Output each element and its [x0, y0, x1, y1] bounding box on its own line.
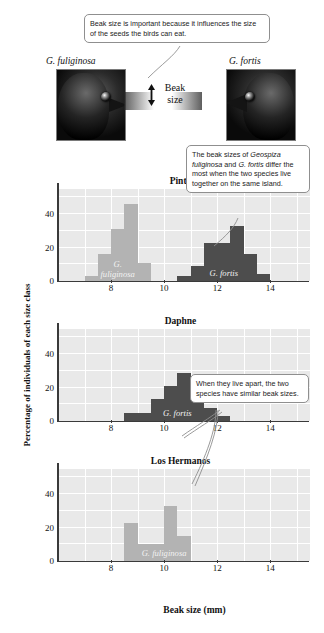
- y-tick-label: 20: [45, 243, 54, 253]
- x-tick-label: 10: [160, 283, 169, 293]
- bird-body-shape: [243, 73, 293, 140]
- callout-text: Beak size is important because it influe…: [90, 19, 256, 38]
- gridline-horizontal: [58, 196, 310, 197]
- x-tick-label: 10: [160, 563, 169, 573]
- species-caption-right: G. fortis: [229, 56, 261, 66]
- gridline-horizontal: [58, 336, 310, 337]
- gridline-vertical: [138, 329, 139, 421]
- x-axis-title: Beak size (mm): [30, 605, 324, 615]
- x-tick-label: 14: [266, 283, 275, 293]
- histogram-pinta: G.fuliginosaG. fortis 020408101214: [58, 189, 310, 281]
- gridline-vertical: [85, 469, 86, 561]
- y-tick-label: 40: [45, 349, 54, 359]
- y-axis-line: [57, 323, 59, 421]
- histogram-bar: [138, 263, 151, 281]
- beak-size-label-line2: size: [167, 94, 183, 105]
- x-tick-label: 8: [109, 283, 114, 293]
- gridline-horizontal: [58, 527, 310, 528]
- x-tick-label: 12: [213, 563, 222, 573]
- y-tick-label: 20: [45, 383, 54, 393]
- plot-area: G.fuliginosaG. fortis: [58, 189, 310, 281]
- y-tick-label: 40: [45, 209, 54, 219]
- gridline-vertical: [85, 189, 86, 281]
- callout-text: The beak sizes of Geospiza fuliginosa an…: [192, 150, 293, 188]
- y-tick-label: 0: [50, 276, 55, 286]
- gridline-horizontal: [58, 370, 310, 371]
- callout-leader-line-daphne: [176, 410, 226, 490]
- gridline-vertical: [270, 189, 271, 281]
- gridline-vertical: [85, 329, 86, 421]
- callout-text: When they live apart, the two species ha…: [196, 379, 299, 398]
- x-tick-label: 8: [109, 423, 114, 433]
- gridline-horizontal: [58, 510, 310, 511]
- histogram-bar: [244, 254, 257, 281]
- y-axis-line: [57, 463, 59, 561]
- series-label: G. fuliginosa: [142, 549, 187, 559]
- callout-leader-line-top: [140, 46, 200, 80]
- chart-title: Los Hermanos: [30, 456, 315, 466]
- gridline-horizontal: [58, 263, 310, 264]
- callout-daphne-explanation: When they live apart, the two species ha…: [190, 374, 309, 403]
- callout-leader-line-pinta: [204, 218, 244, 248]
- y-tick-label: 40: [45, 489, 54, 499]
- x-tick-label: 10: [160, 423, 169, 433]
- chart-panel-daphne: Daphne G. fortis 020408101214: [30, 316, 315, 421]
- gridline-vertical: [111, 469, 112, 561]
- gridline-horizontal: [58, 247, 310, 248]
- bird-eye-shape: [245, 92, 255, 102]
- x-tick-label: 12: [213, 283, 222, 293]
- finch-head-large-beak-icon: [226, 69, 296, 141]
- gridline-vertical: [164, 189, 165, 281]
- callout-pinta-explanation: The beak sizes of Geospiza fuliginosa an…: [186, 145, 310, 193]
- bird-eye-shape: [101, 92, 111, 102]
- bird-beak-shape: [226, 94, 247, 112]
- gridline-horizontal: [58, 230, 310, 231]
- y-tick-label: 0: [50, 416, 55, 426]
- gridline-horizontal: [58, 493, 310, 494]
- gridline-horizontal: [58, 213, 310, 214]
- series-label: G.fuliginosa: [100, 260, 134, 279]
- species-caption-left: G. fuliginosa: [46, 56, 96, 66]
- chart-title: Daphne: [30, 316, 315, 326]
- gridline-vertical: [244, 469, 245, 561]
- series-label: G. fortis: [209, 269, 238, 279]
- x-tick-label: 14: [266, 423, 275, 433]
- bird-body-shape: [58, 73, 108, 140]
- x-tick-label: 8: [109, 563, 114, 573]
- chart-panel-los-hermanos: Los Hermanos G. fuliginosa 020408101214: [30, 456, 315, 561]
- y-tick-label: 0: [50, 556, 55, 566]
- gridline-horizontal: [58, 353, 310, 354]
- y-tick-label: 20: [45, 523, 54, 533]
- beak-size-label: Beak size: [152, 82, 198, 106]
- histogram-bar: [191, 266, 204, 281]
- callout-beak-importance: Beak size is important because it influe…: [84, 14, 270, 43]
- gridline-vertical: [297, 189, 298, 281]
- beak-size-label-line1: Beak: [165, 82, 186, 93]
- gridline-vertical: [111, 329, 112, 421]
- x-tick-label: 14: [266, 563, 275, 573]
- finch-head-small-beak-icon: [56, 69, 126, 141]
- gridline-vertical: [297, 469, 298, 561]
- histogram-bar: [124, 523, 137, 561]
- gridline-vertical: [270, 469, 271, 561]
- y-axis-line: [57, 183, 59, 281]
